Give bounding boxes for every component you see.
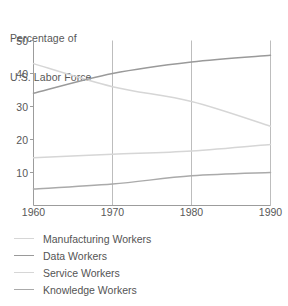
y-axis-tick-labels: 1020304050 xyxy=(4,36,28,206)
legend-color-swatch xyxy=(14,255,34,256)
plot-area xyxy=(0,36,287,216)
series-line xyxy=(34,64,271,127)
line-chart-figure: Percentage of U.S. Labor Force 102030405… xyxy=(0,0,287,306)
x-axis-tick-label: 1990 xyxy=(251,206,288,218)
plot-svg xyxy=(0,36,287,216)
legend-color-swatch xyxy=(14,272,34,273)
x-axis-tick-labels: 1960197019801990 xyxy=(0,206,287,222)
y-axis-tick-label: 30 xyxy=(6,102,28,112)
x-axis-tick-label: 1960 xyxy=(14,206,54,218)
legend-label: Data Workers xyxy=(43,250,107,262)
legend-color-swatch xyxy=(14,238,34,239)
legend-item[interactable]: Knowledge Workers xyxy=(0,281,287,298)
x-axis-tick-label: 1970 xyxy=(93,206,133,218)
legend-color-swatch xyxy=(14,289,34,290)
y-axis-tick-label: 20 xyxy=(6,135,28,145)
legend-label: Knowledge Workers xyxy=(43,284,137,296)
legend-label: Manufacturing Workers xyxy=(43,233,151,245)
legend-item[interactable]: Service Workers xyxy=(0,264,287,281)
series-line xyxy=(34,144,271,157)
y-axis-tick-label: 10 xyxy=(6,168,28,178)
legend-item[interactable]: Manufacturing Workers xyxy=(0,230,287,247)
legend-item[interactable]: Data Workers xyxy=(0,247,287,264)
series-line xyxy=(34,173,271,190)
y-axis-tick-label: 50 xyxy=(6,36,28,46)
y-axis-tick-label: 40 xyxy=(6,69,28,79)
x-axis-tick-label: 1980 xyxy=(172,206,212,218)
legend-label: Service Workers xyxy=(43,267,120,279)
chart-legend: Manufacturing WorkersData WorkersService… xyxy=(0,230,287,298)
